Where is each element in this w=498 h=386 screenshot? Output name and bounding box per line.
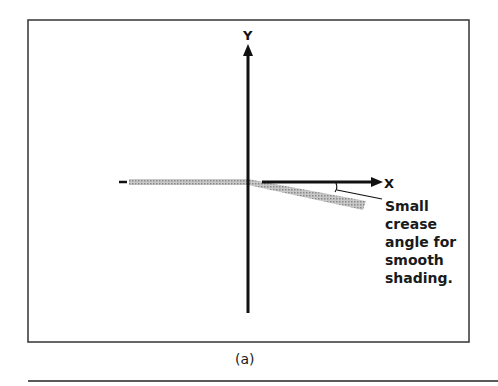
angle-arc xyxy=(335,183,337,192)
crease-angle-diagram: Y X xyxy=(0,0,498,386)
annotation-line: angle for xyxy=(385,233,456,251)
y-axis-arrow-icon xyxy=(243,44,253,56)
figure-caption: (a) xyxy=(235,351,255,367)
annotation-line: Small xyxy=(385,197,456,215)
annotation-line: smooth xyxy=(385,251,456,269)
y-axis-label: Y xyxy=(242,28,253,43)
flat-surface xyxy=(129,179,248,185)
annotation-line: shading. xyxy=(385,269,456,287)
x-axis-label: X xyxy=(384,176,394,191)
x-axis-arrow-icon xyxy=(371,177,383,187)
annotation-line: crease xyxy=(385,215,456,233)
crease-angle-annotation: Small crease angle for smooth shading. xyxy=(385,197,456,287)
tilted-surface xyxy=(248,179,366,210)
